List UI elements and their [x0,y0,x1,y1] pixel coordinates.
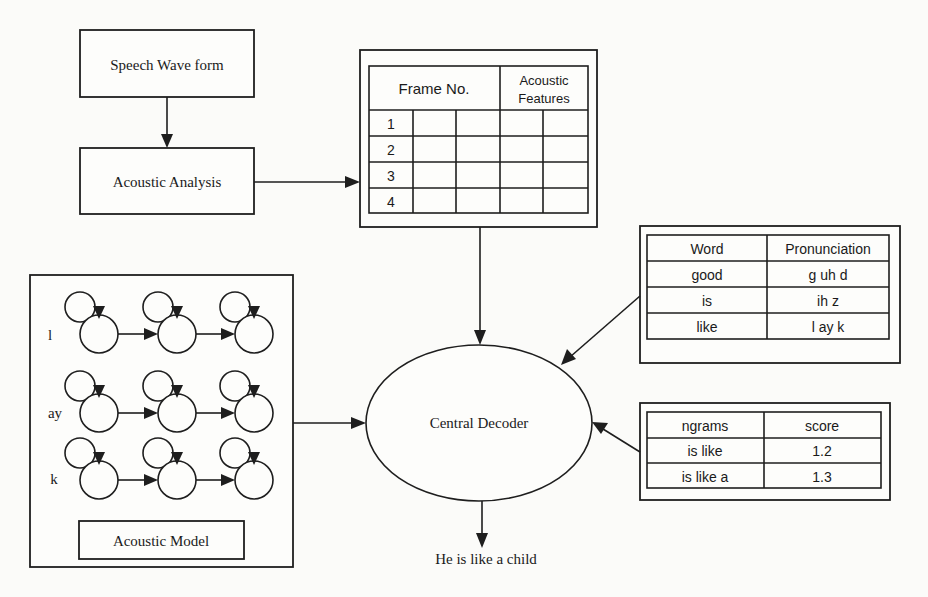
ngram-table: ngrams score is like 1.2 is like a 1.3 [640,403,890,500]
frame-row-1: 1 [387,116,395,132]
arrow-analysis-to-features [254,176,360,188]
lexicon-word-2: is [702,293,712,309]
frame-row-2: 2 [387,142,395,158]
central-decoder-label: Central Decoder [430,415,529,431]
output-transcript: He is like a child [435,551,537,567]
central-decoder-node: Central Decoder [366,345,592,501]
ngram-score-1: 1.2 [812,443,832,459]
ngram-2: is like a [682,469,729,485]
acoustic-model: l ay k [30,275,293,567]
ngram-score-2: 1.3 [812,469,832,485]
acoustic-model-label: Acoustic Model [113,533,209,549]
speech-waveform-label: Speech Wave form [110,57,224,73]
lexicon-pron-2: ih z [817,293,839,309]
lexicon-header-word: Word [690,241,723,257]
lexicon-pron-1: g uh d [809,267,848,283]
ngram-1: is like [687,443,722,459]
lexicon-word-1: good [691,267,722,283]
arrow-features-to-decoder [474,227,486,345]
acoustic-features-header-line1: Acoustic [519,73,569,88]
ngram-header-score: score [805,418,839,434]
ngram-frame [640,403,890,500]
asr-pipeline-diagram: Speech Wave form Acoustic Analysis Frame… [0,0,928,597]
arrow-ngram-to-decoder [592,422,640,452]
arrow-waveform-to-analysis [161,97,173,148]
phone-label-ay: ay [48,405,63,421]
lexicon-pron-3: l ay k [812,319,846,335]
speech-waveform-node: Speech Wave form [80,30,254,97]
lexicon-header-pronunciation: Pronunciation [785,241,871,257]
lexicon-word-3: like [696,319,717,335]
arrow-acoustic-model-to-decoder [293,417,366,429]
frame-no-header: Frame No. [399,80,470,97]
frame-row-4: 4 [387,194,395,210]
phone-label-k: k [50,471,58,487]
frame-row-3: 3 [387,168,395,184]
acoustic-features-header-line2: Features [518,91,570,106]
acoustic-analysis-label: Acoustic Analysis [113,174,222,190]
ngram-header-ngrams: ngrams [682,418,729,434]
acoustic-analysis-node: Acoustic Analysis [80,148,254,214]
arrow-lexicon-to-decoder [561,296,640,365]
feature-table: Frame No. Acoustic Features 1 2 3 4 [360,50,597,227]
phone-label-l: l [48,327,52,343]
lexicon-table: Word Pronunciation good g uh d is ih z l… [640,226,900,363]
arrow-decoder-to-output [476,501,488,548]
